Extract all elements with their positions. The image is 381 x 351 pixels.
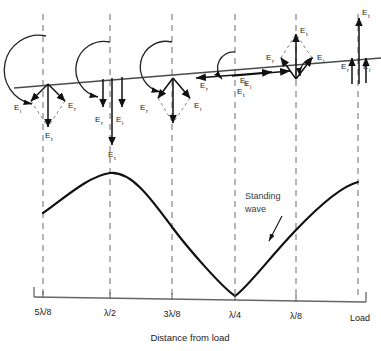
phasor-sublabel-Ei-5lambda8: i xyxy=(20,108,21,114)
standing-wave-annotation: Standing wave xyxy=(244,191,282,241)
phasor-sublabel-Et-lambda2: t xyxy=(114,155,116,161)
vector-Er-lambda8 xyxy=(281,58,296,79)
parallelogram-3lambda8 xyxy=(158,98,190,123)
x-axis-label-lambda2: λ/2 xyxy=(104,308,116,318)
vector-Er-lambda4 xyxy=(196,75,235,78)
phasor-reference-axis xyxy=(14,58,381,88)
phasor-label-Ei-lambda2: E xyxy=(116,115,121,124)
phasor-label-Et-lambda4: E xyxy=(237,87,242,96)
phasor-label-Et-5lambda8: E xyxy=(45,131,50,140)
phasor-group-load: E t E r E i xyxy=(341,8,370,84)
phasor-group-3lambda-8: E r E i xyxy=(140,41,201,123)
phase-arc-lambda2 xyxy=(76,41,110,97)
standing-wave-annotation-line1: Standing xyxy=(245,191,281,201)
phase-arc-lambda8 xyxy=(300,58,313,76)
phasor-sublabel-Et-lambda4: t xyxy=(243,92,245,98)
phasor-label-Ei-5lambda8: E xyxy=(14,103,19,112)
phasor-label-Er-lambda4: E xyxy=(200,81,205,90)
phasor-sublabel-Ei-lambda2: i xyxy=(122,120,123,126)
phasor-sublabel-Er-lambda8: r xyxy=(272,58,274,64)
phasor-label-Er-load: E xyxy=(341,62,346,71)
phasor-sublabel-Et-lambda8: t xyxy=(306,31,308,37)
annotation-leader-line xyxy=(269,216,282,241)
phasor-sublabel-Er-load: r xyxy=(347,67,349,73)
phasor-label-Ei-3lambda8: E xyxy=(194,101,199,110)
x-axis-title: Distance from load xyxy=(150,332,229,343)
phasor-label-Et-load: E xyxy=(362,8,367,17)
figure-root: E i E r E t E r E i E t E r E i xyxy=(0,0,381,351)
x-axis-label-load: Load xyxy=(350,313,370,323)
phasor-label-Er-lambda8: E xyxy=(266,53,271,62)
standing-wave-annotation-line2: wave xyxy=(244,204,266,214)
phasor-label-Et-lambda2: E xyxy=(108,150,113,159)
phasor-sublabel-Ei-load: i xyxy=(369,67,370,73)
phasor-label-Ei-lambda8: E xyxy=(317,53,322,62)
phasor-label-Et-lambda8: E xyxy=(300,26,305,35)
phasor-sublabel-Et-5lambda8: t xyxy=(51,136,53,142)
x-axis-label-lambda8: λ/8 xyxy=(290,311,302,321)
phase-arc-3lambda8 xyxy=(140,41,172,92)
phasor-sublabel-Er-5lambda8: r xyxy=(74,106,76,112)
phasor-group-lambda-4: E r E i E t xyxy=(196,52,272,98)
phasor-sublabel-Ei-3lambda8: i xyxy=(200,106,201,112)
standing-wave-curve xyxy=(43,173,358,296)
phasor-sublabel-Ei-lambda4: i xyxy=(250,84,251,90)
vector-Ei-3lambda8 xyxy=(173,78,190,98)
phasor-sublabel-Er-3lambda8: r xyxy=(146,108,148,114)
phasor-sublabel-Ei-axis-lambda8: i xyxy=(246,81,247,87)
phasor-sublabel-Er-lambda4: r xyxy=(206,86,208,92)
x-axis-label-lambda4: λ/4 xyxy=(229,310,241,320)
phasor-group-lambda-2: E r E i E t xyxy=(76,41,124,161)
phasor-label-Er-5lambda8: E xyxy=(68,101,73,110)
phasor-label-Ei-load: E xyxy=(363,62,368,71)
phasor-sublabel-Er-lambda2: r xyxy=(101,120,103,126)
vector-Er-3lambda8 xyxy=(158,78,173,98)
x-axis-label-5lambda8: 5λ/8 xyxy=(34,307,51,317)
phasor-label-Er-lambda2: E xyxy=(95,115,100,124)
vector-Ei-lambda8 xyxy=(296,58,312,79)
vector-Er-5lambda8 xyxy=(48,84,65,101)
phasor-sublabel-Ei-lambda8: i xyxy=(323,58,324,64)
x-axis: 5λ/8 λ/2 3λ/8 λ/4 λ/8 Load Distance from… xyxy=(34,287,370,343)
phasor-label-Ei-axis-lambda8: E xyxy=(240,76,245,85)
phasor-sublabel-Et-load: t xyxy=(368,13,370,19)
x-axis-baseline xyxy=(34,297,366,302)
phase-arc-5lambda8 xyxy=(4,35,46,104)
standing-wave-diagram: E i E r E t E r E i E t E r E i xyxy=(0,0,381,351)
phasor-label-Er-3lambda8: E xyxy=(140,103,145,112)
x-axis-label-3lambda8: 3λ/8 xyxy=(163,309,180,319)
phasor-group-lambda-8: E i E t E r E i xyxy=(232,26,324,87)
